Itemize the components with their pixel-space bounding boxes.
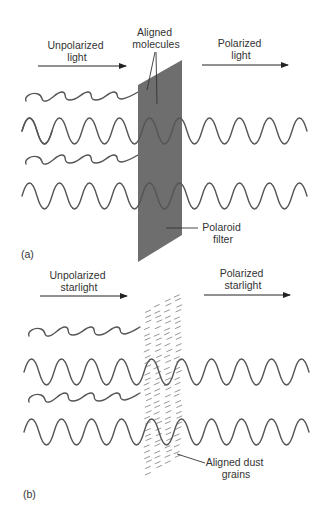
aligned-molecules-label: Aligned molecules: [132, 26, 179, 50]
unpolarized-starlight-label: Unpolarized starlight: [50, 269, 109, 293]
dust-grain: [176, 337, 181, 339]
dust-grain: [176, 439, 181, 441]
unpolarized-squiggle-b-1: [29, 327, 140, 336]
dust-grain: [145, 417, 150, 419]
dust-grain: [166, 304, 171, 306]
dust-grain: [155, 349, 160, 351]
polarized-starlight-label: Polarized starlight: [220, 267, 267, 291]
dust-grain: [167, 349, 172, 351]
dust-grain: [144, 445, 149, 447]
dust-grain: [155, 451, 160, 453]
dust-grain: [175, 383, 180, 385]
dust-grain: [166, 411, 171, 413]
dust-grain: [177, 371, 182, 373]
panel-a: Unpolarized light Aligned molecules Pola…: [21, 26, 307, 262]
dust-grain: [154, 334, 159, 336]
dust-grain: [155, 326, 160, 328]
dust-grain: [157, 320, 162, 322]
dust-grain: [144, 350, 149, 352]
dust-grain: [165, 344, 170, 346]
dust-grain: [166, 372, 171, 374]
dust-grain: [165, 455, 170, 457]
dust-grain: [144, 383, 149, 385]
dust-grain: [166, 378, 171, 380]
dust-grain: [165, 328, 170, 330]
dust-grain: [165, 461, 170, 463]
polaroid-filter: [138, 60, 182, 262]
dust-grain: [174, 445, 179, 447]
dust-grain: [165, 310, 170, 312]
dust-grain: [155, 389, 160, 391]
dust-grain: [165, 316, 170, 318]
dust-grain: [176, 427, 181, 429]
dust-grain: [154, 401, 159, 403]
dust-grain: [177, 416, 182, 418]
dust-grain: [154, 305, 159, 307]
dust-grain: [154, 383, 159, 385]
dust-grain: [144, 327, 149, 329]
dust-grain: [146, 438, 151, 440]
panel-b-label: (b): [23, 488, 36, 500]
dust-grain: [157, 421, 162, 423]
dust-grain: [145, 356, 150, 358]
dust-grain: [146, 393, 151, 395]
dust-grain: [155, 405, 160, 407]
dust-grain: [177, 405, 182, 407]
dust-grain: [146, 310, 151, 312]
dust-grain: [146, 466, 151, 468]
polarized-light-label: Polarized light: [218, 37, 265, 61]
dust-grain: [156, 344, 161, 346]
panel-b: Unpolarized starlight Polarized starligh…: [23, 267, 309, 500]
dust-grain: [165, 395, 170, 397]
dust-grain: [145, 405, 150, 407]
dust-grain: [146, 343, 151, 345]
unpolarized-light-label: Unpolarized light: [48, 39, 107, 63]
dust-grain: [166, 360, 171, 362]
dust-grain: [175, 321, 180, 323]
dust-grain: [166, 432, 171, 434]
dust-grain: [157, 465, 162, 467]
dust-grain: [146, 411, 151, 413]
dust-grain: [176, 350, 181, 352]
dust-grain: [166, 417, 171, 419]
dust-grain: [165, 446, 170, 448]
dust-grain: [145, 338, 150, 340]
dust-grain: [155, 456, 160, 458]
dust-grain: [156, 316, 161, 318]
dust-grain: [176, 411, 181, 413]
dust-grain: [155, 440, 160, 442]
dust-grain: [147, 460, 152, 462]
dust-grain: [145, 451, 150, 453]
grains-leader: [177, 454, 205, 463]
dust-grain: [174, 295, 179, 297]
dust-grain: [154, 412, 159, 414]
dust-grain: [145, 378, 150, 380]
dust-grain: [174, 452, 179, 454]
dust-grain: [154, 418, 159, 420]
aligned-dust-grains: [144, 295, 182, 475]
dust-grain: [145, 456, 150, 458]
dust-grain: [146, 320, 151, 322]
unpolarized-squiggle-2: [26, 155, 138, 164]
dust-grain: [176, 401, 181, 403]
dust-grain: [166, 321, 171, 323]
dust-grain: [164, 333, 169, 335]
dust-grain: [165, 421, 170, 423]
dust-grain: [155, 462, 160, 464]
dust-grain: [175, 378, 180, 380]
dust-grain: [167, 450, 172, 452]
dust-grain: [174, 394, 179, 396]
polaroid-filter-label: Polaroid filter: [202, 221, 243, 245]
dust-grain: [146, 434, 151, 436]
dust-grain: [145, 373, 150, 375]
dust-grain: [165, 405, 170, 407]
dust-grain: [175, 455, 180, 457]
polarized-sine-b-1: [24, 359, 309, 385]
dust-grain: [165, 355, 170, 357]
unpolarized-squiggle-1: [26, 92, 138, 101]
dust-grain: [145, 429, 150, 431]
dust-grain: [166, 428, 171, 430]
dust-grain: [176, 344, 181, 346]
dust-grain: [174, 357, 179, 359]
dust-grain: [145, 334, 150, 336]
